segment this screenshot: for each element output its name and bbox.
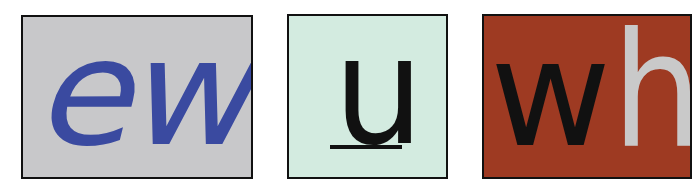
tile-ew: ew [21, 15, 253, 179]
tile-u-underline [330, 145, 402, 149]
tile-u: u [287, 14, 448, 179]
tile-wh-letter-w: w [490, 20, 611, 168]
tile-wh-letter-h: h [612, 14, 692, 170]
tile-ew-text: ew [29, 19, 253, 167]
tile-wh: w h [482, 14, 692, 179]
tile-u-text: u [333, 16, 423, 166]
